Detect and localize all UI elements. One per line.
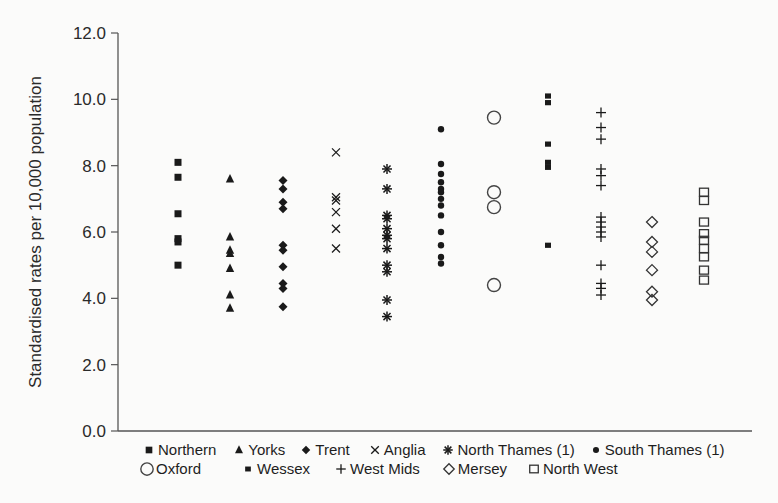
legend-label: Yorks xyxy=(248,440,285,459)
legend-item: Wessex xyxy=(241,459,310,478)
filled-diamond-marker-icon xyxy=(279,246,288,255)
small-square-marker-icon xyxy=(545,100,551,105)
open-circle-marker-icon xyxy=(488,111,501,124)
asterisk-marker-icon xyxy=(444,445,454,455)
plus-marker-icon xyxy=(596,108,606,118)
filled-circle-marker-icon xyxy=(438,126,444,132)
open-diamond-marker-icon xyxy=(647,265,658,276)
filled-square-marker-icon xyxy=(175,262,182,269)
filled-circle-marker-icon xyxy=(593,446,599,452)
open-diamond-marker-icon xyxy=(647,286,658,297)
series-trent xyxy=(279,176,288,311)
open-circle-marker-icon xyxy=(488,279,501,292)
filled-diamond-marker-icon xyxy=(279,184,288,193)
plus-marker-icon xyxy=(596,171,606,181)
legend-label: North Thames (1) xyxy=(457,440,574,459)
y-tick-label: 10.0 xyxy=(73,90,106,109)
filled-circle-marker-icon xyxy=(438,189,444,195)
y-tick-label: 2.0 xyxy=(82,356,106,375)
y-tick-label: 4.0 xyxy=(82,289,106,308)
series-anglia xyxy=(332,148,340,252)
legend: NorthernYorksTrentAngliaNorth Thames (1)… xyxy=(140,440,778,478)
data-points xyxy=(175,93,709,321)
axes: 0.02.04.06.08.010.012.0 xyxy=(73,24,752,441)
y-tick-label: 12.0 xyxy=(73,24,106,43)
filled-square-marker-icon xyxy=(175,174,182,181)
series-northern xyxy=(175,159,182,269)
open-square-marker-icon xyxy=(700,196,709,204)
y-tick-label: 0.0 xyxy=(82,422,106,441)
open-diamond-marker-icon xyxy=(647,217,658,228)
asterisk-marker-icon xyxy=(382,184,392,194)
open-diamond-marker-icon xyxy=(647,294,658,305)
legend-item: North Thames (1) xyxy=(441,440,574,459)
y-axis-label: Standardised rates per 10,000 population xyxy=(26,76,45,388)
open-circle-marker-icon xyxy=(488,201,501,214)
series-north-thames xyxy=(382,164,392,322)
filled-square-marker-icon xyxy=(175,210,182,217)
filled-triangle-marker-icon xyxy=(226,290,234,299)
asterisk-marker-icon xyxy=(382,312,392,322)
filled-diamond-marker-icon xyxy=(279,176,288,185)
open-square-marker-icon xyxy=(700,188,709,196)
legend-label: Wessex xyxy=(257,459,310,478)
legend-item: Mersey xyxy=(442,459,507,478)
legend-label: Oxford xyxy=(156,459,201,478)
filled-circle-marker-icon xyxy=(438,202,444,208)
filled-triangle-marker-icon xyxy=(226,232,234,241)
plus-marker-icon xyxy=(596,123,606,133)
plus-marker-icon xyxy=(596,260,606,270)
x-marker-icon xyxy=(332,245,340,253)
x-marker-icon xyxy=(371,446,379,454)
small-square-marker-icon xyxy=(545,243,551,248)
asterisk-marker-icon xyxy=(382,234,392,244)
filled-triangle-marker-icon xyxy=(226,303,234,312)
asterisk-marker-icon xyxy=(382,267,392,277)
legend-label: Trent xyxy=(315,440,349,459)
filled-square-marker-icon xyxy=(146,446,153,453)
open-circle-marker-icon xyxy=(141,462,153,474)
legend-item: North West xyxy=(527,459,618,478)
small-square-marker-icon xyxy=(545,93,551,98)
filled-diamond-marker-icon xyxy=(279,204,288,213)
x-marker-icon xyxy=(332,225,340,233)
filled-circle-marker-icon xyxy=(438,229,444,235)
filled-square-marker-icon xyxy=(175,159,182,166)
filled-circle-marker-icon xyxy=(438,254,444,260)
filled-diamond-marker-icon xyxy=(302,445,311,454)
filled-triangle-marker-icon xyxy=(235,445,243,453)
asterisk-marker-icon xyxy=(382,244,392,254)
series-west-mids xyxy=(596,108,606,300)
open-square-marker-icon xyxy=(700,218,709,226)
plus-marker-icon xyxy=(596,134,606,144)
small-square-marker-icon xyxy=(245,466,251,471)
legend-item: West Mids xyxy=(334,459,420,478)
open-square-marker-icon xyxy=(700,245,709,253)
series-north-west xyxy=(700,188,709,284)
asterisk-marker-icon xyxy=(382,164,392,174)
legend-label: Anglia xyxy=(384,440,426,459)
legend-item: Trent xyxy=(299,440,349,459)
asterisk-marker-icon xyxy=(382,214,392,224)
open-square-marker-icon xyxy=(700,276,709,284)
legend-row: NorthernYorksTrentAngliaNorth Thames (1)… xyxy=(140,440,778,459)
series-yorks xyxy=(226,174,234,312)
legend-item: Anglia xyxy=(368,440,426,459)
filled-diamond-marker-icon xyxy=(279,302,288,311)
filled-square-marker-icon xyxy=(175,238,182,245)
plus-marker-icon xyxy=(336,464,346,474)
filled-triangle-marker-icon xyxy=(226,263,234,272)
x-marker-icon xyxy=(332,208,340,216)
filled-circle-marker-icon xyxy=(438,212,444,218)
open-square-marker-icon xyxy=(530,465,539,473)
filled-triangle-marker-icon xyxy=(226,174,234,183)
series-oxford xyxy=(488,111,501,291)
legend-label: Northern xyxy=(158,440,216,459)
filled-circle-marker-icon xyxy=(438,161,444,167)
legend-item: Yorks xyxy=(232,440,285,459)
plus-marker-icon xyxy=(596,290,606,300)
small-square-marker-icon xyxy=(545,142,551,147)
open-diamond-marker-icon xyxy=(444,463,454,473)
filled-diamond-marker-icon xyxy=(279,284,288,293)
small-square-marker-icon xyxy=(545,165,551,170)
